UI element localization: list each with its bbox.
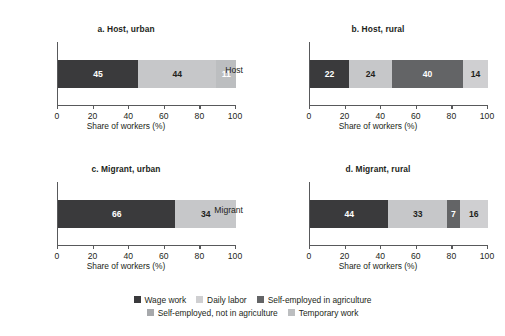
- bar-segment: 44: [138, 60, 216, 88]
- bar-segment-value: 44: [172, 70, 182, 79]
- bar-segment: 33: [388, 200, 447, 228]
- x-tick-mark: [345, 245, 346, 249]
- x-tick-label: 60: [159, 251, 169, 261]
- bar-segment-value: 33: [413, 210, 423, 219]
- panel-c-bar: 6634: [58, 200, 236, 228]
- legend-item[interactable]: Self-employed, not in agriculture: [147, 308, 278, 318]
- bar-segment-value: 34: [201, 210, 211, 219]
- x-tick-label: 100: [480, 251, 494, 261]
- bar-segment-value: 40: [423, 70, 433, 79]
- x-tick-label: 20: [88, 251, 98, 261]
- panel-b-x-axis-label: Share of workers (%): [252, 121, 504, 131]
- bar-segment-value: 45: [93, 70, 103, 79]
- x-tick-label: 80: [195, 251, 205, 261]
- bar-segment-value: 44: [344, 210, 354, 219]
- bar-segment: 44: [310, 200, 388, 228]
- panel-c: c. Migrant, urban Migrant 6634 020406080…: [0, 148, 252, 288]
- x-tick-label: 0: [307, 251, 312, 261]
- bar-segment: 40: [392, 60, 463, 88]
- x-tick-mark: [235, 105, 236, 109]
- x-tick-mark: [93, 105, 94, 109]
- x-tick-label: 0: [55, 251, 60, 261]
- bar-segment: 45: [58, 60, 138, 88]
- x-tick-mark: [128, 105, 129, 109]
- bar-segment-value: 66: [112, 210, 122, 219]
- x-tick-mark: [164, 245, 165, 249]
- legend-swatch-icon: [288, 309, 295, 316]
- x-tick-label: 80: [447, 251, 457, 261]
- legend-swatch-icon: [134, 296, 141, 303]
- panel-a-bar: 454411: [58, 60, 236, 88]
- legend: Wage workDaily laborSelf-employed in agr…: [0, 293, 505, 319]
- x-tick-mark: [199, 245, 200, 249]
- x-tick-label: 20: [340, 111, 350, 121]
- x-tick-label: 60: [411, 111, 421, 121]
- bar-segment: 22: [310, 60, 349, 88]
- legend-row-2: Self-employed, not in agricultureTempora…: [0, 306, 505, 319]
- stacked-bar-figure: a. Host, urban Host 454411 020406080100 …: [0, 0, 505, 336]
- bar-segment-value: 16: [469, 210, 479, 219]
- legend-label: Daily labor: [207, 295, 247, 305]
- bar-segment: 14: [463, 60, 488, 88]
- bar-segment-value: 22: [325, 70, 335, 79]
- x-tick-mark: [416, 245, 417, 249]
- x-tick-mark: [235, 245, 236, 249]
- legend-row-1: Wage workDaily laborSelf-employed in agr…: [0, 293, 505, 306]
- legend-label: Wage work: [145, 295, 187, 305]
- panel-b-bar: 22244014: [310, 60, 488, 88]
- x-tick-mark: [487, 245, 488, 249]
- panel-a-title: a. Host, urban: [0, 24, 252, 34]
- panel-d: d. Migrant, rural Migrant 4433716 020406…: [252, 148, 504, 288]
- x-tick-label: 60: [159, 111, 169, 121]
- panel-b-title: b. Host, rural: [252, 24, 504, 34]
- x-tick-label: 0: [307, 111, 312, 121]
- x-tick-mark: [164, 105, 165, 109]
- legend-label: Self-employed in agriculture: [268, 295, 372, 305]
- x-tick-mark: [487, 105, 488, 109]
- x-tick-label: 0: [55, 111, 60, 121]
- legend-item[interactable]: Wage work: [134, 295, 187, 305]
- legend-item[interactable]: Self-employed in agriculture: [257, 295, 372, 305]
- legend-label: Self-employed, not in agriculture: [158, 308, 278, 318]
- bar-segment-value: 14: [471, 70, 481, 79]
- panel-a-x-axis-label: Share of workers (%): [0, 121, 252, 131]
- x-tick-mark: [380, 245, 381, 249]
- x-tick-mark: [345, 105, 346, 109]
- bar-segment: 66: [58, 200, 175, 228]
- panel-c-x-axis-label: Share of workers (%): [0, 261, 252, 271]
- x-tick-label: 40: [375, 251, 385, 261]
- panel-d-x-axis-label: Share of workers (%): [252, 261, 504, 271]
- legend-item[interactable]: Temporary work: [288, 308, 359, 318]
- x-tick-label: 100: [228, 111, 242, 121]
- panel-c-title: c. Migrant, urban: [0, 164, 252, 174]
- x-tick-label: 40: [375, 111, 385, 121]
- bar-segment: 24: [349, 60, 392, 88]
- x-tick-label: 40: [123, 251, 133, 261]
- bar-segment: 7: [447, 200, 459, 228]
- legend-item[interactable]: Daily labor: [196, 295, 247, 305]
- bar-segment-value: 7: [451, 210, 456, 219]
- x-tick-label: 80: [195, 111, 205, 121]
- bar-segment: 16: [460, 200, 488, 228]
- x-tick-label: 60: [411, 251, 421, 261]
- x-tick-label: 20: [88, 111, 98, 121]
- x-tick-mark: [57, 105, 58, 109]
- x-tick-label: 100: [480, 111, 494, 121]
- x-tick-mark: [416, 105, 417, 109]
- x-tick-mark: [128, 245, 129, 249]
- x-tick-label: 40: [123, 111, 133, 121]
- x-tick-mark: [451, 245, 452, 249]
- legend-swatch-icon: [196, 296, 203, 303]
- x-tick-mark: [93, 245, 94, 249]
- panel-d-title: d. Migrant, rural: [252, 164, 504, 174]
- x-tick-label: 80: [447, 111, 457, 121]
- legend-label: Temporary work: [299, 308, 359, 318]
- x-tick-mark: [380, 105, 381, 109]
- x-tick-label: 100: [228, 251, 242, 261]
- x-tick-mark: [309, 245, 310, 249]
- legend-swatch-icon: [147, 309, 154, 316]
- panel-d-category-label: Migrant: [214, 205, 243, 215]
- panel-a: a. Host, urban Host 454411 020406080100 …: [0, 8, 252, 148]
- x-tick-mark: [309, 105, 310, 109]
- legend-swatch-icon: [257, 296, 264, 303]
